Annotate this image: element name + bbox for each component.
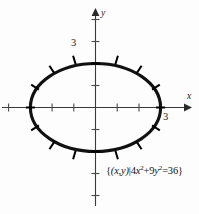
x-axis-arrowhead <box>184 104 192 112</box>
x-axis-label: x <box>186 91 192 101</box>
graph-figure: x y 3 3 {(x,y)|4x2+9y2=36} <box>0 0 199 214</box>
y-axis-arrowhead <box>92 8 100 16</box>
set-builder-equation: {(x,y)|4x2+9y2=36} <box>106 165 183 176</box>
coordinate-plane: x y 3 3 <box>0 0 199 214</box>
equation-ordered-pair: (x,y) <box>111 165 129 176</box>
equation-close-brace: } <box>178 165 183 176</box>
x-tick-label-3: 3 <box>163 111 168 122</box>
y-axis-label: y <box>100 8 106 18</box>
equation-rhs: 36 <box>168 165 178 176</box>
y-tick-label-3: 3 <box>71 37 76 48</box>
